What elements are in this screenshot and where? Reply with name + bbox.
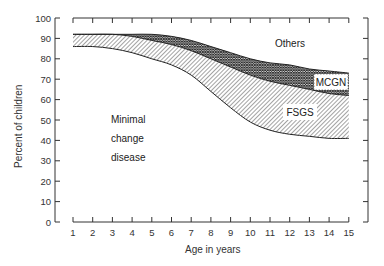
x-tick-label: 2 <box>90 227 95 238</box>
x-tick-label: 4 <box>129 227 134 238</box>
x-tick-label: 14 <box>324 227 335 238</box>
y-tick-label: 60 <box>40 94 51 105</box>
stacked-area-chart: 0102030405060708090100123456789101112131… <box>0 0 384 266</box>
x-tick-label: 12 <box>284 227 295 238</box>
x-tick-label: 7 <box>189 227 194 238</box>
y-tick-label: 0 <box>46 217 51 228</box>
y-tick-label: 20 <box>40 176 51 187</box>
y-tick-label: 100 <box>35 13 51 24</box>
y-axis-title: Percent of children <box>13 85 24 168</box>
x-tick-label: 10 <box>245 227 256 238</box>
x-tick-label: 8 <box>208 227 213 238</box>
x-tick-label: 1 <box>70 227 75 238</box>
y-tick-label: 50 <box>40 115 51 126</box>
x-tick-label: 11 <box>265 227 275 238</box>
y-tick-label: 10 <box>40 196 51 207</box>
x-axis-title: Age in years <box>185 244 241 255</box>
x-tick-label: 6 <box>169 227 174 238</box>
y-tick-label: 70 <box>40 74 51 85</box>
y-tick-label: 90 <box>40 33 51 44</box>
y-tick-label: 80 <box>40 53 51 64</box>
mcgn-label: MCGN <box>316 77 347 88</box>
others-label: Others <box>275 38 305 49</box>
x-tick-label: 3 <box>110 227 115 238</box>
mcd-label-line2: change <box>111 133 144 144</box>
fsgs-label: FSGS <box>286 107 314 118</box>
x-tick-label: 13 <box>304 227 315 238</box>
y-tick-label: 30 <box>40 155 51 166</box>
x-tick-label: 15 <box>344 227 355 238</box>
x-tick-label: 5 <box>149 227 154 238</box>
mcd-label-line3: disease <box>111 152 146 163</box>
mcd-label-line1: Minimal <box>111 114 145 125</box>
y-tick-label: 40 <box>40 135 51 146</box>
x-tick-label: 9 <box>228 227 233 238</box>
